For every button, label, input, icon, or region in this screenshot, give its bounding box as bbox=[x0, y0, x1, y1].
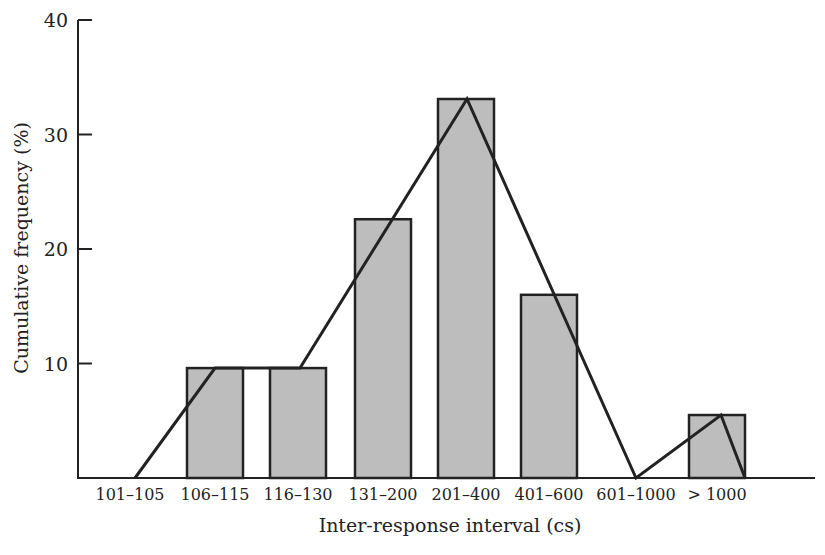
histogram-bar bbox=[187, 368, 243, 478]
y-tick-label: 30 bbox=[44, 124, 68, 146]
histogram-bar bbox=[270, 368, 326, 478]
x-category-label: 201–400 bbox=[431, 485, 500, 504]
histogram-bar bbox=[521, 295, 577, 478]
x-category-label: 601–1000 bbox=[596, 485, 675, 504]
histogram-bar bbox=[689, 415, 745, 478]
y-tick-label: 20 bbox=[44, 238, 68, 260]
x-category-label: 116–130 bbox=[263, 485, 332, 504]
y-tick-label: 40 bbox=[44, 9, 68, 31]
x-category-label: 401–600 bbox=[514, 485, 583, 504]
histogram-bar bbox=[355, 219, 411, 478]
x-category-label: 101–105 bbox=[95, 485, 164, 504]
bars-group bbox=[187, 99, 745, 478]
x-axis-title: Inter-response interval (cs) bbox=[319, 514, 582, 536]
y-tick-label: 10 bbox=[44, 353, 68, 375]
y-axis-title: Cumulative frequency (%) bbox=[10, 122, 32, 374]
y-ticks: 10203040 bbox=[44, 9, 92, 375]
histogram-bar bbox=[438, 99, 494, 478]
x-category-label: 106–115 bbox=[180, 485, 249, 504]
histogram-chart: 10203040 101–105106–115116–130131–200201… bbox=[0, 0, 825, 555]
x-category-label: 131–200 bbox=[348, 485, 417, 504]
x-category-labels: 101–105106–115116–130131–200201–400401–6… bbox=[95, 485, 746, 504]
x-category-label: > 1000 bbox=[687, 485, 746, 504]
